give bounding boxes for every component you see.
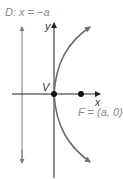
parabola-diagram bbox=[0, 0, 123, 179]
y-axis-label: y bbox=[45, 21, 51, 32]
parabola-lower-branch bbox=[54, 94, 90, 162]
focus-label: F = (a, 0) bbox=[78, 107, 123, 118]
vertex-label: V bbox=[42, 82, 49, 93]
directrix-label: D: x = −a bbox=[5, 7, 50, 18]
parabola-upper-branch bbox=[54, 27, 90, 94]
vertex-point bbox=[51, 91, 57, 97]
focus-point bbox=[78, 91, 84, 97]
